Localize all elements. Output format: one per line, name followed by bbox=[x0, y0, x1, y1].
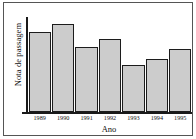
x-tick-label-1989: 1989 bbox=[28, 114, 51, 122]
x-tick-label-1992: 1992 bbox=[98, 114, 121, 122]
x-tick-label-1993: 1993 bbox=[122, 114, 145, 122]
bar-1989 bbox=[29, 32, 51, 112]
bar-series bbox=[28, 17, 192, 113]
x-axis-label: Ano bbox=[26, 124, 192, 134]
y-axis-label: Nota de passagem bbox=[14, 5, 23, 105]
bar-1991 bbox=[75, 47, 97, 112]
x-tick-label-1990: 1990 bbox=[51, 114, 74, 122]
bar-1993 bbox=[122, 65, 144, 112]
plot-area bbox=[26, 17, 192, 113]
x-tick-label-1995: 1995 bbox=[169, 114, 192, 122]
bar-1994 bbox=[146, 59, 168, 112]
figure-frame: Nota de passagem 19891990199119921993199… bbox=[3, 2, 193, 136]
bar-1995 bbox=[169, 49, 191, 112]
x-tick-label-1994: 1994 bbox=[145, 114, 168, 122]
x-tick-label-1991: 1991 bbox=[75, 114, 98, 122]
bar-1992 bbox=[99, 39, 121, 112]
bar-chart-figure: Nota de passagem 19891990199119921993199… bbox=[0, 0, 196, 139]
x-axis-tick-labels: 1989199019911992199319941995 bbox=[26, 114, 192, 124]
bar-1990 bbox=[52, 24, 74, 112]
